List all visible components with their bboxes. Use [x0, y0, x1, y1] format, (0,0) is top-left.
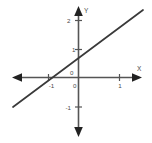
origin-label: 0	[73, 82, 77, 89]
x-axis-right-arrow-icon	[132, 73, 142, 82]
x-axis-left-arrow-icon	[12, 73, 22, 82]
y-axis-up-arrow-icon	[74, 6, 83, 16]
x-tick-label-1: 1	[118, 82, 122, 89]
y-axis-label: Y	[84, 7, 89, 14]
x-tick-label-neg-1: -1	[49, 82, 55, 89]
y-axis-down-arrow-icon	[74, 127, 83, 137]
coordinate-plane-graph: 2 1 -1 0 0 -1 1 X Y	[0, 0, 152, 143]
y-tick-label-1: 1	[72, 46, 76, 53]
origin-upper-label: 0	[70, 69, 74, 76]
graph-svg: 2 1 -1 0 0 -1 1 X Y	[0, 0, 152, 143]
x-axis-label: X	[137, 65, 142, 72]
y-tick-label-2: 2	[67, 17, 71, 24]
y-tick-label-neg-1: -1	[65, 104, 71, 111]
